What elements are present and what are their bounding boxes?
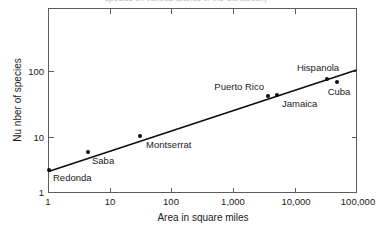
data-point-hispanola xyxy=(325,77,329,81)
x-axis-ticks-top xyxy=(111,9,296,14)
data-point-saba xyxy=(86,150,90,154)
x-axis-title: Area in square miles xyxy=(157,212,248,223)
x-tick-label-1: 10 xyxy=(105,196,116,207)
data-point-puerto-rico xyxy=(266,94,270,98)
x-tick-label-5: 100,000 xyxy=(341,196,375,207)
chart-figure: species on various islands of the Caribb… xyxy=(0,0,383,237)
x-axis-ticks-bottom xyxy=(49,188,357,193)
y-axis-title: Nu nber of species xyxy=(12,58,23,141)
data-point-redonda xyxy=(47,168,51,172)
data-point-labels: Redonda Saba Montserrat Puerto Rico Jama… xyxy=(53,62,351,183)
y-axis-ticks-right xyxy=(352,72,357,138)
data-point-montserrat xyxy=(138,134,142,138)
x-axis-tick-labels: 1 10 100 1,000 10,000 100,000 xyxy=(45,196,375,207)
data-label-hispanola: Hispanola xyxy=(297,62,340,73)
y-tick-label-1: 10 xyxy=(33,132,44,143)
data-point-cuba xyxy=(335,80,339,84)
data-point-jamaica xyxy=(275,93,279,97)
y-tick-label-2: 100 xyxy=(28,66,44,77)
data-label-cuba: Cuba xyxy=(328,86,351,97)
data-label-redonda: Redonda xyxy=(53,172,92,183)
data-label-puerto-rico: Puerto Rico xyxy=(214,81,264,92)
data-label-montserrat: Montserrat xyxy=(146,139,192,150)
x-tick-label-2: 100 xyxy=(163,196,179,207)
x-tick-label-4: 10,000 xyxy=(281,196,310,207)
y-tick-label-0: 1 xyxy=(39,187,44,198)
x-tick-label-3: 1,000 xyxy=(221,196,245,207)
data-label-jamaica: Jamaica xyxy=(282,98,318,109)
species-area-scatter-plot: 1 10 100 1,000 10,000 100,000 1 10 100 A… xyxy=(0,0,383,237)
y-axis-tick-labels: 1 10 100 xyxy=(28,66,44,198)
x-tick-label-0: 1 xyxy=(45,196,50,207)
data-label-saba: Saba xyxy=(92,155,115,166)
